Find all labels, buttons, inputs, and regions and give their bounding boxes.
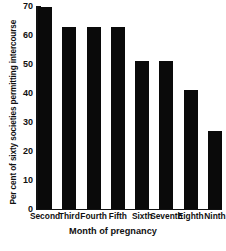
bar-series bbox=[38, 7, 222, 209]
x-axis-line bbox=[36, 209, 222, 211]
bar-slot bbox=[111, 7, 125, 209]
bar-slot bbox=[87, 7, 101, 209]
bar bbox=[87, 27, 101, 209]
bar bbox=[135, 61, 149, 208]
bar-slot bbox=[135, 7, 149, 209]
bar-slot bbox=[38, 7, 52, 209]
x-tick-label: Eighth bbox=[178, 212, 204, 220]
bar-slot bbox=[208, 7, 222, 209]
y-tick-label: 30 bbox=[23, 117, 33, 126]
bar bbox=[184, 90, 198, 208]
bar bbox=[208, 131, 222, 209]
bar bbox=[62, 27, 76, 209]
y-tick-label: 50 bbox=[23, 59, 33, 68]
bar-slot bbox=[62, 7, 76, 209]
x-tick-label: Fourth bbox=[80, 212, 107, 220]
y-tick-label: 40 bbox=[23, 88, 33, 97]
bar-chart-figure: Per cent of sixty societies permitting i… bbox=[0, 0, 226, 251]
x-tick-label: Third bbox=[59, 212, 80, 220]
y-tick-label: 20 bbox=[23, 146, 33, 155]
y-tick-label: 70 bbox=[23, 2, 33, 11]
y-axis-title: Per cent of sixty societies permitting i… bbox=[10, 12, 18, 212]
bar bbox=[111, 27, 125, 209]
bar bbox=[159, 61, 173, 208]
x-tick-label: Second bbox=[30, 212, 60, 220]
x-axis-title: Month of pregnancy bbox=[0, 227, 226, 236]
y-tick-mark bbox=[37, 209, 41, 210]
x-axis-tick-labels: SecondThirdFourthFifthSixthSeventhEighth… bbox=[30, 212, 226, 225]
x-tick-label: Ninth bbox=[204, 212, 225, 220]
bar bbox=[38, 7, 52, 209]
plot-area: 010203040506070 bbox=[36, 6, 222, 210]
y-tick-label: 60 bbox=[23, 30, 33, 39]
y-tick-label: 10 bbox=[23, 175, 33, 184]
bar-slot bbox=[184, 7, 198, 209]
bar-slot bbox=[159, 7, 173, 209]
x-tick-label: Fifth bbox=[109, 212, 127, 220]
